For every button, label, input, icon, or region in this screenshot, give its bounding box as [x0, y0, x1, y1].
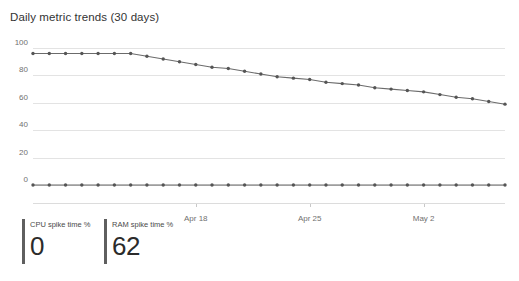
series-marker[interactable] [357, 83, 360, 86]
series-marker[interactable] [341, 82, 344, 85]
kpi-card[interactable]: CPU spike time %0 [22, 219, 90, 264]
series-marker[interactable] [471, 97, 474, 100]
series-marker[interactable] [275, 75, 278, 78]
series-marker[interactable] [259, 72, 262, 75]
kpi-label: CPU spike time % [30, 220, 90, 230]
series-marker[interactable] [48, 183, 51, 186]
series-marker[interactable] [487, 183, 490, 186]
series-marker[interactable] [178, 183, 181, 186]
y-axis-tick-label: 80 [0, 66, 28, 74]
series-marker[interactable] [162, 57, 165, 60]
series-marker[interactable] [487, 100, 490, 103]
series-marker[interactable] [64, 52, 67, 55]
series-marker[interactable] [422, 90, 425, 93]
y-axis-tick-label: 0 [0, 176, 28, 184]
series-marker[interactable] [31, 52, 34, 55]
series-marker[interactable] [80, 52, 83, 55]
kpi-text-block: RAM spike time %62 [112, 219, 173, 261]
x-axis-tick-label: May 2 [413, 214, 435, 223]
series-marker[interactable] [178, 60, 181, 63]
series-marker[interactable] [406, 183, 409, 186]
x-axis-line [33, 203, 505, 204]
series-marker[interactable] [324, 81, 327, 84]
series-marker[interactable] [31, 183, 34, 186]
y-axis-tick-label: 60 [0, 94, 28, 102]
x-axis-tick-label: Apr 18 [184, 214, 208, 223]
series-marker[interactable] [292, 183, 295, 186]
y-axis-tick-label: 20 [0, 149, 28, 157]
series-marker[interactable] [194, 63, 197, 66]
series-marker[interactable] [308, 183, 311, 186]
series-marker[interactable] [129, 52, 132, 55]
series-marker[interactable] [64, 183, 67, 186]
page-title: Daily metric trends (30 days) [10, 11, 159, 23]
series-marker[interactable] [341, 183, 344, 186]
series-marker[interactable] [373, 183, 376, 186]
series-marker[interactable] [389, 183, 392, 186]
kpi-value: 0 [30, 231, 90, 261]
chart-series-layer [33, 48, 505, 185]
dashboard-root: Daily metric trends (30 days) 0204060801… [0, 0, 519, 281]
series-marker[interactable] [454, 96, 457, 99]
kpi-text-block: CPU spike time %0 [30, 219, 90, 261]
series-marker[interactable] [243, 70, 246, 73]
series-marker[interactable] [373, 86, 376, 89]
kpi-accent-bar [22, 219, 25, 264]
series-marker[interactable] [259, 183, 262, 186]
series-marker[interactable] [438, 93, 441, 96]
series-marker[interactable] [145, 183, 148, 186]
series-marker[interactable] [471, 183, 474, 186]
y-axis-tick-label: 100 [0, 39, 28, 47]
x-axis-tick-label: Apr 25 [298, 214, 322, 223]
series-marker[interactable] [145, 55, 148, 58]
series-marker[interactable] [406, 89, 409, 92]
series-marker[interactable] [503, 183, 506, 186]
series-line-0[interactable] [33, 53, 505, 104]
series-marker[interactable] [129, 183, 132, 186]
series-marker[interactable] [389, 87, 392, 90]
series-marker[interactable] [227, 183, 230, 186]
series-marker[interactable] [324, 183, 327, 186]
y-axis-tick-label: 40 [0, 121, 28, 129]
chart-panel: 020406080100Apr 18Apr 25May 2 [0, 30, 519, 215]
series-marker[interactable] [275, 183, 278, 186]
series-marker[interactable] [113, 52, 116, 55]
series-marker[interactable] [503, 102, 506, 105]
kpi-card[interactable]: RAM spike time %62 [104, 219, 173, 264]
kpi-label: RAM spike time % [112, 220, 173, 230]
series-marker[interactable] [210, 65, 213, 68]
series-marker[interactable] [292, 76, 295, 79]
series-marker[interactable] [243, 183, 246, 186]
series-marker[interactable] [162, 183, 165, 186]
kpi-accent-bar [104, 219, 107, 264]
series-marker[interactable] [227, 67, 230, 70]
series-marker[interactable] [438, 183, 441, 186]
series-marker[interactable] [454, 183, 457, 186]
series-marker[interactable] [194, 183, 197, 186]
series-marker[interactable] [113, 183, 116, 186]
series-marker[interactable] [210, 183, 213, 186]
series-marker[interactable] [308, 78, 311, 81]
series-marker[interactable] [80, 183, 83, 186]
chart-plot-area[interactable]: 020406080100Apr 18Apr 25May 2 [33, 48, 505, 185]
series-marker[interactable] [48, 52, 51, 55]
kpi-value: 62 [112, 231, 173, 261]
series-marker[interactable] [357, 183, 360, 186]
series-marker[interactable] [96, 52, 99, 55]
series-marker[interactable] [96, 183, 99, 186]
series-marker[interactable] [422, 183, 425, 186]
